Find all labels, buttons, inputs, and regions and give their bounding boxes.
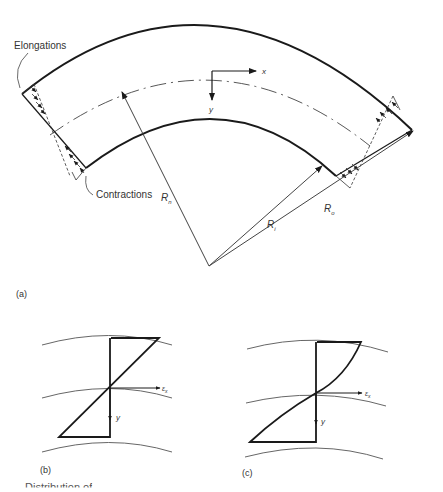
panel-b-bottom-arc: [42, 443, 172, 453]
panel-b-label: (b): [40, 465, 51, 475]
radius-neutral-label: Rn: [161, 192, 172, 205]
radius-outer-label: Ro: [324, 203, 335, 216]
y-axis-label: y: [208, 105, 214, 114]
elongations-leader: [17, 53, 28, 88]
panel-c-bottom-arc: [245, 448, 383, 459]
curved-beam-diagram: x y Rn Ri Ro Elongations Contractions (a…: [0, 0, 443, 492]
panel-c-y-label: y: [320, 417, 326, 426]
radius-inner-line: [209, 166, 322, 266]
radius-outer-line: [209, 131, 413, 266]
x-axis-label: x: [261, 67, 267, 76]
radius-neutral-line: [122, 92, 209, 266]
panel-a: x y Rn Ri Ro Elongations Contractions (a…: [14, 25, 413, 299]
panel-c: εx y (c): [242, 340, 388, 478]
contractions-label: Contractions: [96, 189, 152, 200]
panel-a-label: (a): [16, 289, 27, 299]
outer-fiber-arc: [22, 25, 412, 130]
panel-c-label: (c): [242, 468, 253, 478]
panel-c-strain-label: εx: [365, 390, 371, 399]
panel-c-strain-profile: [250, 342, 361, 442]
contractions-leader: [86, 176, 93, 195]
panel-b-y-label: y: [115, 413, 121, 422]
left-end-section: [22, 94, 86, 168]
panel-b-strain-label: εx: [162, 385, 168, 394]
inner-fiber-arc: [86, 119, 336, 176]
radius-inner-label: Ri: [267, 219, 276, 232]
panel-b: εx y (b): [40, 336, 172, 476]
elongations-label: Elongations: [14, 40, 66, 51]
